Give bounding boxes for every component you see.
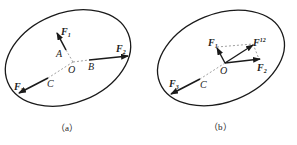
label-f1: F1 xyxy=(60,26,71,38)
parallelogram-edge-top xyxy=(217,44,253,47)
label-f1: F1 xyxy=(207,37,218,49)
label-point-o: O xyxy=(220,65,227,76)
force-diagram: F1 F2 F3 A B C O （a） F1 F12 F2 F3 C O （b… xyxy=(0,0,297,145)
label-point-o: O xyxy=(68,64,75,75)
line-of-action-1 xyxy=(66,50,73,62)
label-point-a: A xyxy=(55,48,63,59)
caption-a: （a） xyxy=(56,123,78,133)
label-f3: F3 xyxy=(13,81,24,93)
force-vector-f2 xyxy=(89,56,128,60)
label-f2: F2 xyxy=(115,43,126,55)
panel-a: F1 F2 F3 A B C O （a） xyxy=(0,0,145,133)
caption-b: （b） xyxy=(209,122,232,132)
label-point-b: B xyxy=(88,61,94,72)
force-vector-f1 xyxy=(217,48,225,63)
label-f12: F12 xyxy=(252,37,266,48)
panel-b: F1 F12 F2 F3 C O （b） xyxy=(143,0,297,132)
rigid-body-outline xyxy=(143,0,297,124)
label-f2: F2 xyxy=(256,62,267,74)
label-f3: F3 xyxy=(168,78,179,90)
line-of-action-2 xyxy=(73,60,89,62)
label-point-c: C xyxy=(200,79,207,90)
label-point-c: C xyxy=(47,78,54,89)
